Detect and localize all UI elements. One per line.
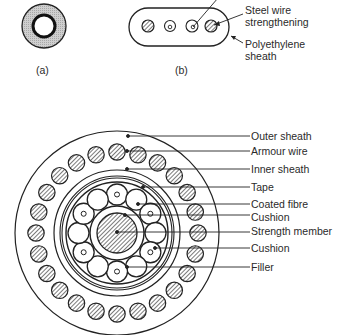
cable-b [129, 0, 243, 46]
armour-wire [88, 147, 104, 163]
armour-wire [28, 225, 44, 241]
armour-wire [39, 265, 55, 281]
label-cushion-inner: Cushion [251, 211, 290, 223]
armour-wire [187, 204, 203, 220]
armour-wire [109, 144, 125, 160]
cable-c [15, 131, 250, 335]
filler [68, 223, 89, 244]
filler [145, 223, 166, 244]
cable-a [22, 4, 66, 48]
label-polyethylene-sheath: Polyethylene sheath [245, 38, 305, 62]
armour-wire [149, 295, 165, 311]
label-armour-wire: Armour wire [251, 145, 308, 157]
label-steel-wire: Steel wire strengthening [245, 4, 309, 28]
armour-wire [88, 303, 104, 319]
label-coated-fibre: Coated fibre [251, 198, 308, 210]
armour-wire [31, 204, 47, 220]
label-outer-sheath: Outer sheath [251, 130, 312, 142]
armour-wire [130, 147, 146, 163]
label-cushion-outer: Cushion [251, 242, 290, 254]
armour-wire [166, 168, 182, 184]
armour-wire [31, 246, 47, 262]
armour-wire [52, 282, 68, 298]
armour-wire [52, 168, 68, 184]
filler [126, 256, 147, 277]
armour-wire [190, 225, 206, 241]
armour-wire [39, 184, 55, 200]
filler [87, 189, 108, 210]
label-strength-member: Strength member [251, 225, 332, 237]
armour-wire [130, 303, 146, 319]
caption-b: (b) [175, 64, 188, 76]
armour-wire [179, 265, 195, 281]
label-tape: Tape [251, 181, 274, 193]
armour-wire [166, 282, 182, 298]
label-filler: Filler [251, 261, 274, 273]
label-inner-sheath: Inner sheath [251, 163, 309, 175]
armour-wire [68, 155, 84, 171]
armour-wire [109, 306, 125, 322]
armour-wire [68, 295, 84, 311]
caption-a: (a) [36, 64, 49, 76]
